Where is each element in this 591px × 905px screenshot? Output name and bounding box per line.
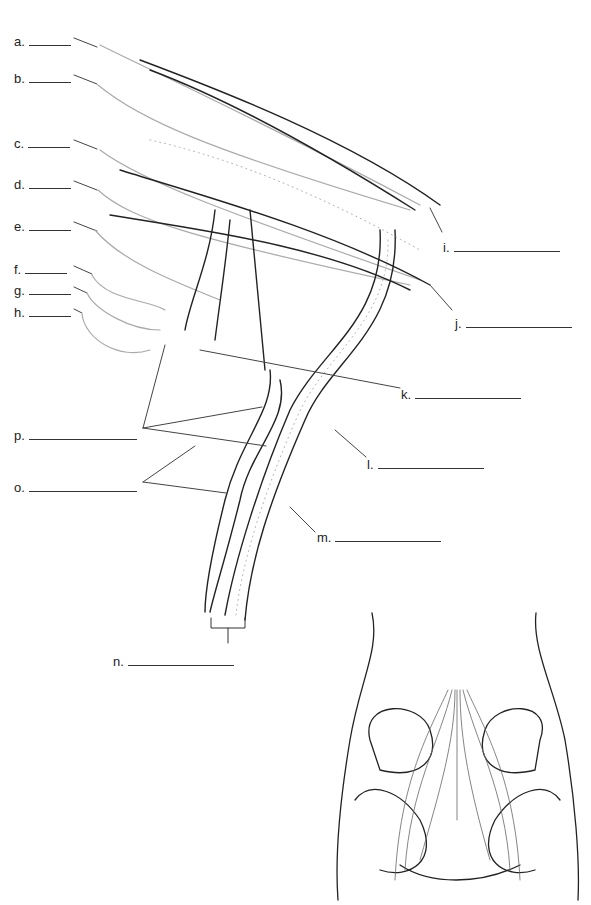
pelvis-nerves (395, 690, 520, 880)
label-n: n. (113, 654, 234, 669)
leader-lines-right (143, 208, 452, 532)
label-m: m. (317, 530, 441, 545)
answer-blank-o[interactable] (29, 490, 137, 492)
answer-blank-i[interactable] (454, 250, 560, 252)
answer-blank-f[interactable] (25, 272, 67, 274)
answer-blank-b[interactable] (29, 81, 71, 83)
answer-blank-n[interactable] (128, 664, 234, 666)
label-h: h. (14, 305, 71, 320)
label-o: o. (14, 480, 137, 495)
leader-lines-left (74, 38, 97, 313)
label-e: e. (14, 219, 71, 234)
label-d: d. (14, 177, 71, 192)
nerve-roots (82, 45, 420, 353)
answer-blank-a[interactable] (29, 44, 71, 46)
pelvis-inset (337, 613, 578, 900)
label-f: f. (14, 262, 67, 277)
answer-blank-j[interactable] (466, 326, 572, 328)
answer-blank-m[interactable] (335, 540, 441, 542)
label-p: p. (14, 428, 137, 443)
answer-blank-d[interactable] (29, 187, 71, 189)
label-c: c. (14, 136, 70, 151)
label-k: k. (401, 387, 521, 402)
answer-blank-p[interactable] (29, 438, 137, 440)
answer-blank-e[interactable] (29, 229, 71, 231)
label-a: a. (14, 34, 71, 49)
label-l: l. (367, 457, 484, 472)
answer-blank-l[interactable] (378, 467, 484, 469)
label-b: b. (14, 71, 71, 86)
answer-blank-k[interactable] (415, 397, 521, 399)
label-g: g. (14, 283, 71, 298)
label-j: j. (455, 316, 572, 331)
label-i: i. (443, 240, 560, 255)
answer-blank-h[interactable] (29, 315, 71, 317)
answer-blank-g[interactable] (29, 293, 71, 295)
bracket-n (211, 618, 245, 643)
nerve-plexus-illustration (0, 0, 591, 905)
answer-blank-c[interactable] (28, 146, 70, 148)
